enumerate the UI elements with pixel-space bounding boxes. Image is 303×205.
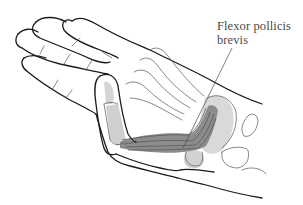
label-muscle-name-line2: brevis [217,34,248,47]
anatomy-illustration: Flexor pollicis brevis [0,0,303,205]
inner-lines [40,38,266,174]
label-muscle-name-line1: Flexor pollicis [217,20,291,33]
